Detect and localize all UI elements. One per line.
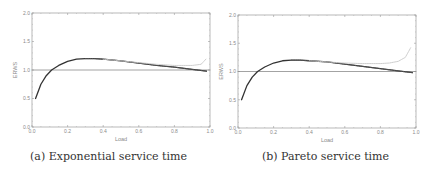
series-simulation — [85, 59, 206, 72]
x-tick-label: 0.6 — [135, 128, 142, 134]
chart-pareto: 0.00.20.40.60.81.00.00.51.01.52.0LoadERW… — [217, 0, 434, 150]
y-tick-label: 1.0 — [229, 68, 236, 74]
y-tick-label: 0.5 — [23, 95, 30, 101]
y-tick-label: 1.5 — [229, 40, 236, 46]
x-axis-label: Load — [321, 137, 333, 143]
y-tick-label: 0.5 — [229, 97, 236, 103]
x-axis-label: Load — [115, 136, 127, 142]
x-tick-label: 0.2 — [64, 128, 71, 134]
series-analytic — [242, 60, 413, 100]
caption-exponential: (a) Exponential service time — [0, 150, 217, 163]
y-tick-label: 0.0 — [229, 125, 236, 131]
x-tick-label: 0.4 — [100, 128, 107, 134]
y-tick-label: 0.0 — [23, 124, 30, 130]
y-tick-label: 1.0 — [23, 67, 30, 73]
panel-exponential: 0.00.20.40.60.81.00.00.51.01.52.0LoadERW… — [0, 0, 217, 180]
x-tick-label: 1.0 — [413, 129, 420, 135]
y-tick-label: 2.0 — [23, 10, 30, 16]
x-tick-label: 0.2 — [270, 129, 277, 135]
x-tick-label: 0.8 — [171, 128, 178, 134]
series-analytic — [36, 59, 207, 99]
x-tick-label: 1.0 — [207, 128, 214, 134]
series-approximation — [103, 59, 206, 66]
x-tick-label: 0.6 — [341, 129, 348, 135]
caption-pareto: (b) Pareto service time — [217, 150, 434, 163]
panel-pareto: 0.00.20.40.60.81.00.00.51.01.52.0LoadERW… — [217, 0, 434, 180]
chart-exponential: 0.00.20.40.60.81.00.00.51.01.52.0LoadERW… — [0, 0, 217, 150]
y-tick-label: 1.5 — [23, 38, 30, 44]
x-tick-label: 0.8 — [377, 129, 384, 135]
y-tick-label: 2.0 — [229, 12, 236, 18]
x-tick-label: 0.4 — [306, 129, 313, 135]
y-axis-label: ERWS — [218, 63, 224, 80]
y-axis-label: ERWS — [12, 61, 18, 78]
